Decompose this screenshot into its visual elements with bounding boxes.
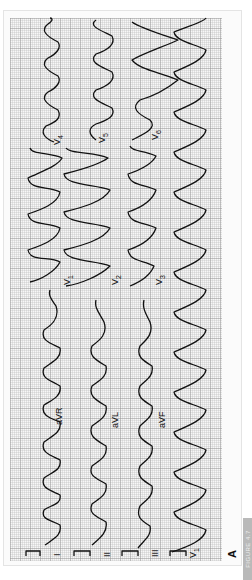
figure-number-tab: FIGURE 4.7 [243, 518, 252, 580]
lead-label-III: III [150, 549, 160, 557]
trace-lead-V3 [128, 146, 156, 286]
trace-lead-V1 [28, 148, 62, 282]
trace-lead-III-aVF [138, 300, 152, 548]
calibration-pulse-3 [122, 551, 138, 556]
trace-rhythm-V1 [172, 18, 206, 552]
lead-label-aVL: aVL [110, 412, 120, 428]
lead-label-V1-rhythm: V1 [188, 548, 200, 558]
lead-label-V5: V5 [97, 133, 109, 143]
lead-label-aVF: aVF [157, 411, 167, 428]
panel-label: A [226, 550, 238, 558]
trace-lead-V4 [43, 18, 59, 142]
lead-label-V1: V1 [62, 275, 74, 285]
lead-label-I: I [52, 553, 62, 556]
ecg-traces [0, 0, 252, 580]
lead-label-V4: V4 [52, 135, 64, 145]
lead-label-V6: V6 [150, 130, 162, 140]
lead-label-aVR: aVR [54, 407, 64, 425]
trace-lead-V5 [90, 20, 113, 140]
lead-label-V2: V2 [110, 275, 122, 285]
trace-lead-V2 [64, 148, 110, 286]
lead-label-V3: V3 [154, 275, 166, 285]
calibration-pulse-1 [26, 551, 40, 556]
lead-label-II: II [102, 552, 112, 557]
trace-lead-II-aVL [91, 300, 106, 545]
figure-number-text: FIGURE 4.7 [245, 530, 251, 568]
trace-lead-V6 [132, 22, 178, 140]
calibration-pulse-2 [74, 551, 90, 556]
